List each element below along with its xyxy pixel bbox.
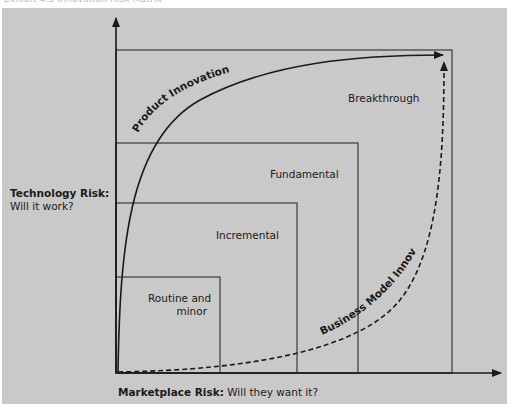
region-label-fundamental: Fundamental	[270, 168, 339, 181]
x-axis-label-question: Will they want it?	[224, 386, 318, 398]
region-label-incremental: Incremental	[216, 229, 279, 242]
x-axis-label-title: Marketplace Risk:	[118, 386, 224, 398]
region-label-routine-line1: Routine and	[148, 292, 207, 305]
y-axis-label-question: Will it work?	[10, 200, 109, 213]
business-model-innovation-curve	[118, 62, 444, 372]
region-label-routine-line2: minor	[148, 305, 207, 318]
product-innovation-label: Product Innovation	[129, 62, 230, 134]
region-label-routine: Routine and minor	[148, 292, 207, 318]
y-axis-label: Technology Risk: Will it work?	[10, 187, 109, 213]
region-label-breakthrough: Breakthrough	[348, 92, 420, 105]
x-axis-label: Marketplace Risk: Will they want it?	[118, 386, 318, 399]
y-axis-label-title: Technology Risk:	[10, 187, 109, 200]
